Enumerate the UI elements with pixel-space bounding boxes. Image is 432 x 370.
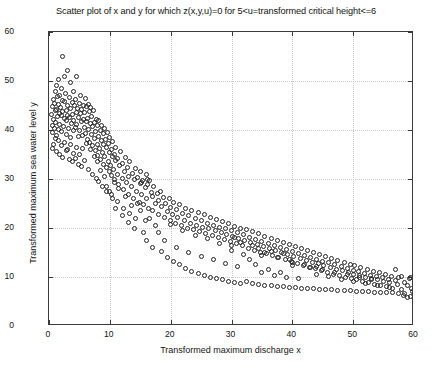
data-point [383, 272, 388, 277]
data-point [162, 215, 167, 220]
x-tick-label: 30 [226, 329, 236, 339]
data-point [121, 206, 126, 211]
data-point [275, 238, 280, 243]
data-point [68, 80, 73, 85]
data-point [272, 273, 277, 278]
data-point [281, 240, 286, 245]
data-point [214, 276, 219, 281]
data-point [285, 252, 290, 257]
data-point [219, 230, 224, 235]
data-point [311, 250, 316, 255]
data-point [115, 172, 120, 177]
data-point [120, 161, 125, 166]
data-point [329, 256, 334, 261]
data-point [401, 293, 406, 298]
data-point [60, 155, 65, 160]
data-point [150, 208, 155, 213]
data-point [57, 93, 62, 98]
data-point [79, 164, 84, 169]
data-point [193, 216, 198, 221]
data-point [153, 223, 158, 228]
data-point [83, 131, 88, 136]
data-point [275, 255, 280, 260]
data-point [162, 238, 167, 243]
data-point [335, 258, 340, 263]
data-point [287, 285, 292, 290]
data-point [145, 182, 150, 187]
data-point [220, 277, 225, 282]
data-point [102, 174, 107, 179]
data-point [159, 249, 164, 254]
x-tick-label: 50 [347, 329, 357, 339]
data-point [223, 261, 228, 266]
data-point [354, 289, 359, 294]
data-point [183, 206, 188, 211]
data-point [123, 194, 128, 199]
data-point [206, 226, 211, 231]
y-axis-label: Transformed maximum sea water level y [28, 58, 38, 308]
data-point [214, 217, 219, 222]
data-point [358, 265, 363, 270]
data-point [205, 236, 210, 241]
data-point [171, 259, 176, 264]
data-point [189, 269, 194, 274]
data-point [305, 248, 310, 253]
data-point [238, 281, 243, 286]
data-point [143, 218, 148, 223]
data-point [372, 290, 377, 295]
data-point [138, 169, 143, 174]
data-point [133, 216, 138, 221]
data-point [74, 145, 79, 150]
data-point [296, 276, 301, 281]
data-point [408, 275, 413, 280]
data-point [125, 165, 130, 170]
data-point [158, 189, 163, 194]
data-point [287, 242, 292, 247]
data-point [130, 171, 135, 176]
data-point [110, 139, 115, 144]
data-point [405, 295, 410, 300]
data-point [202, 273, 207, 278]
data-point [384, 290, 389, 295]
data-point [323, 287, 328, 292]
data-point [151, 184, 156, 189]
data-point [308, 265, 313, 270]
data-point [238, 226, 243, 231]
data-point [220, 219, 225, 224]
data-point [273, 248, 278, 253]
data-point [247, 257, 252, 262]
data-point [170, 212, 175, 217]
data-point [144, 238, 149, 243]
data-point [232, 280, 237, 285]
data-point [342, 288, 347, 293]
y-tick-label: 10 [4, 271, 14, 281]
data-point [150, 245, 155, 250]
data-point [275, 284, 280, 289]
data-point [278, 270, 283, 275]
data-point [129, 203, 134, 208]
data-point [378, 290, 383, 295]
data-point [180, 228, 185, 233]
data-point [96, 118, 101, 123]
data-point [194, 223, 199, 228]
data-point [269, 236, 274, 241]
data-point [217, 241, 222, 246]
data-point [342, 260, 347, 265]
y-tick-label: 40 [4, 124, 14, 134]
data-point [95, 159, 100, 164]
data-point [113, 206, 118, 211]
data-point [262, 234, 267, 239]
data-point [88, 147, 93, 152]
data-point [247, 235, 252, 240]
data-point [369, 277, 374, 282]
data-point [174, 207, 179, 212]
data-point [363, 281, 368, 286]
data-point [256, 231, 261, 236]
data-point [366, 289, 371, 294]
data-point [150, 194, 155, 199]
data-point [115, 199, 120, 204]
data-point [371, 269, 376, 274]
data-point [197, 229, 202, 234]
data-point [351, 279, 356, 284]
data-point [256, 282, 261, 287]
